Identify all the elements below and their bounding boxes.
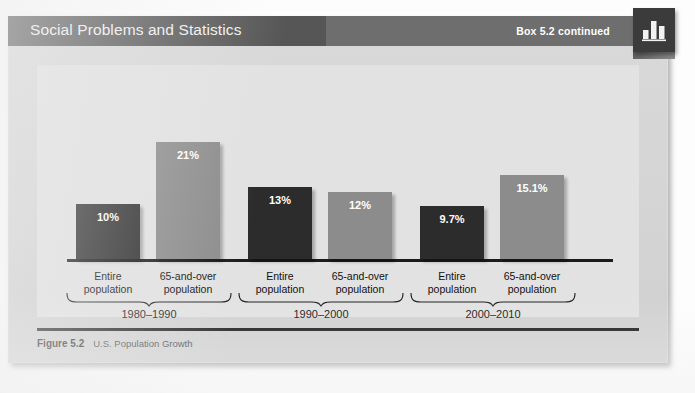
header-right-band <box>326 16 668 46</box>
category-line-1: 65-and-over <box>487 270 577 283</box>
group-brace-2 <box>237 291 405 307</box>
bar-g2-65over: 12% <box>328 192 392 259</box>
figure-title: U.S. Population Growth <box>93 338 192 349</box>
box-container: Social Problems and Statistics Box 5.2 c… <box>8 16 668 363</box>
bar-value-label: 12% <box>328 199 392 211</box>
icon-fold-shadow <box>633 52 675 59</box>
bar-value-label: 13% <box>248 194 312 206</box>
bar-value-label: 15.1% <box>500 182 564 194</box>
bar-value-label: 21% <box>156 149 220 161</box>
bar-g1-entire: 10% <box>76 204 140 259</box>
category-line-1: Entire <box>235 270 325 283</box>
bar-value-label: 9.7% <box>420 213 484 225</box>
figure-caption: Figure 5.2U.S. Population Growth <box>37 338 193 349</box>
bar-chart-icon <box>633 8 675 52</box>
group-brace-1 <box>65 291 233 307</box>
bar-chart: 10% 21% 13% 12% 9.7% 15.1% <box>37 65 639 317</box>
bar-g1-65over: 21% <box>156 142 220 259</box>
chart-panel: 10% 21% 13% 12% 9.7% 15.1% <box>37 65 639 317</box>
bar-g2-entire: 13% <box>248 187 312 259</box>
bar-g3-65over: 15.1% <box>500 175 564 259</box>
group-label-2: 1990–2000 <box>237 308 405 320</box>
category-line-1: 65-and-over <box>315 270 405 283</box>
group-brace-3 <box>409 291 577 307</box>
category-line-1: 65-and-over <box>143 270 233 283</box>
page-title: Social Problems and Statistics <box>30 21 241 39</box>
group-label-3: 2000–2010 <box>409 308 577 320</box>
caption-rule <box>37 328 639 331</box>
box-label: Box 5.2 continued <box>516 25 610 37</box>
chart-baseline <box>67 259 613 262</box>
bar-g3-entire: 9.7% <box>420 206 484 259</box>
box-header: Social Problems and Statistics Box 5.2 c… <box>8 16 668 46</box>
figure-number: Figure 5.2 <box>37 338 84 349</box>
category-line-1: Entire <box>407 270 497 283</box>
page-root: Social Problems and Statistics Box 5.2 c… <box>0 0 695 393</box>
bar-value-label: 10% <box>76 211 140 223</box>
category-line-1: Entire <box>63 270 153 283</box>
bar-chart-icon-glyph <box>641 17 667 43</box>
group-label-1: 1980–1990 <box>65 308 233 320</box>
